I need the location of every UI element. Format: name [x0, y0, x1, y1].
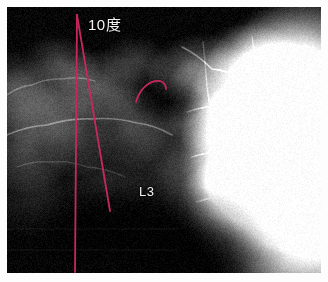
- vertebra-level-label: L3: [139, 184, 154, 199]
- angle-measurement-label: 10度: [88, 13, 121, 34]
- xray-image-viewer: 10度 L3: [0, 0, 328, 282]
- radiograph-image: [7, 7, 321, 273]
- radiograph-frame: [7, 7, 321, 273]
